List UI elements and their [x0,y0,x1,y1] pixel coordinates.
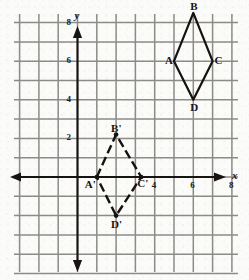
rhombus-a-prime-outline [97,135,141,216]
coordinate-diagram: 8 6 4 2 4 6 8 x y A B C D A' B' C' D' [0,0,249,280]
x-tick-label-4: 4 [152,181,157,190]
grid-vertical-lines [20,14,232,272]
y-tick-label-4: 4 [67,95,72,104]
y-tick-label-2: 2 [67,133,72,142]
y-axis-up-arrowhead [73,26,82,38]
x-tick-label-8: 8 [229,181,234,190]
vertex-label-d-prime: D' [111,219,122,230]
vertex-label-a: A [165,55,173,66]
y-axis-down-arrowhead [73,260,82,272]
vertex-label-a-prime: A' [85,179,96,190]
y-tick-label-6: 6 [67,56,72,65]
grid-horizontal-lines [14,23,238,274]
x-axis-label: x [232,170,238,181]
y-axis-label: y [75,10,80,21]
vertex-label-d: D [190,102,198,113]
y-tick-label-8: 8 [67,18,72,27]
x-axis-right-arrowhead [214,172,226,181]
diagram-canvas [0,0,249,280]
vertex-label-b: B [190,1,197,12]
x-tick-label-6: 6 [190,181,195,190]
vertex-label-c: C [215,55,223,66]
x-axis-left-arrowhead [10,172,21,181]
vertex-label-b-prime: B' [111,123,121,134]
vertex-label-c-prime: C' [137,178,148,189]
